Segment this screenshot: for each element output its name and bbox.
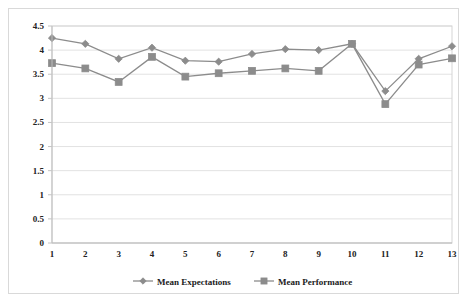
y-tick-label: 2 (40, 142, 45, 152)
y-tick-label: 0.5 (33, 214, 45, 224)
x-axis (52, 26, 452, 243)
data-point-marker (415, 61, 422, 68)
plot-border (52, 26, 452, 243)
y-axis-tick-labels: 00.511.522.533.544.5 (33, 21, 45, 248)
data-point-marker (449, 55, 456, 62)
data-point-marker (249, 67, 256, 74)
x-tick-label: 8 (283, 249, 288, 259)
y-tick-label: 3 (40, 93, 45, 103)
data-point-marker (115, 55, 122, 62)
y-axis-tick-marks (48, 26, 52, 243)
chart-legend: Mean ExpectationsMean Performance (133, 277, 352, 287)
data-point-marker (248, 50, 255, 57)
x-tick-label: 11 (381, 249, 390, 259)
x-tick-label: 3 (116, 249, 121, 259)
data-point-marker (448, 43, 455, 50)
data-point-marker (315, 47, 322, 54)
legend-item-1[interactable]: Mean Expectations (133, 277, 231, 287)
data-point-marker (82, 40, 89, 47)
y-tick-label: 1 (40, 190, 45, 200)
data-point-marker (282, 46, 289, 53)
line-chart: 00.511.522.533.544.5 12345678910111213 M… (0, 0, 467, 302)
data-series-layer (48, 34, 455, 107)
y-tick-label: 0 (40, 238, 45, 248)
x-tick-label: 7 (250, 249, 255, 259)
x-tick-label: 2 (83, 249, 88, 259)
y-tick-label: 4 (40, 45, 45, 55)
plot-area-border (52, 26, 452, 243)
x-tick-label: 10 (348, 249, 358, 259)
legend-label: Mean Expectations (157, 277, 231, 287)
gridlines (52, 26, 452, 243)
data-point-marker (382, 101, 389, 108)
data-point-marker (149, 53, 156, 60)
x-tick-label: 12 (414, 249, 424, 259)
x-tick-label: 13 (448, 249, 458, 259)
x-tick-label: 9 (316, 249, 321, 259)
data-point-marker (215, 58, 222, 65)
data-point-marker (182, 57, 189, 64)
x-axis-tick-labels: 12345678910111213 (50, 249, 457, 259)
chart-svg: 00.511.522.533.544.5 12345678910111213 M… (0, 0, 467, 302)
legend-marker-square-icon (261, 278, 267, 284)
data-point-marker (182, 73, 189, 80)
series-1 (48, 34, 455, 94)
y-tick-label: 4.5 (33, 21, 45, 31)
x-tick-label: 4 (150, 249, 155, 259)
legend-label: Mean Performance (278, 277, 352, 287)
legend-marker-diamond-icon (140, 278, 146, 284)
data-point-marker (315, 67, 322, 74)
data-point-marker (349, 40, 356, 47)
chart-screenshot: 00.511.522.533.544.5 12345678910111213 M… (0, 0, 467, 302)
data-point-marker (115, 79, 122, 86)
series-line (52, 38, 452, 91)
data-point-marker (282, 65, 289, 72)
data-point-marker (82, 65, 89, 72)
legend-item-2[interactable]: Mean Performance (254, 277, 352, 287)
x-tick-label: 5 (183, 249, 188, 259)
y-tick-label: 2.5 (33, 117, 45, 127)
y-tick-label: 3.5 (33, 69, 45, 79)
x-tick-label: 1 (50, 249, 55, 259)
y-tick-label: 1.5 (33, 166, 45, 176)
data-point-marker (215, 70, 222, 77)
x-tick-label: 6 (216, 249, 221, 259)
